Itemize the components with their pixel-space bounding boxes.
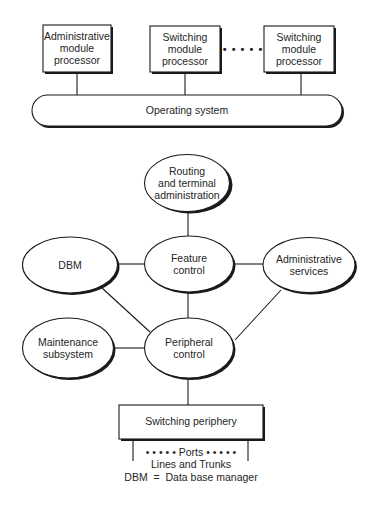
label-line: Peripheral: [165, 336, 213, 348]
label-line: Switching: [162, 31, 208, 43]
label-line: Feature: [171, 252, 207, 264]
label-line: module: [44, 42, 110, 54]
label-line: Administrative: [44, 30, 110, 42]
label-line: control: [165, 348, 213, 360]
peripheral-control-label: Peripheral control: [165, 336, 213, 360]
label-line: processor: [162, 55, 208, 67]
label-line: control: [171, 264, 207, 276]
label-line: module: [162, 43, 208, 55]
label-line: administration: [154, 189, 219, 201]
routing-label: Routing and terminal administration: [154, 165, 219, 201]
switching-module-processor-label-n: Switching module processor: [276, 31, 322, 67]
label-line: DBM: [58, 259, 81, 271]
switching-periphery-label: Switching periphery: [145, 415, 237, 427]
label-line: Switching: [276, 31, 322, 43]
operating-system-label: Operating system: [146, 104, 228, 116]
dbm-label: DBM: [58, 259, 81, 271]
legend-dbm: DBM = Data base manager: [124, 471, 257, 483]
label-line: processor: [276, 55, 322, 67]
administrative-services-label: Administrative services: [276, 253, 342, 277]
edge-admin-services-peripheral: [235, 290, 281, 340]
edge-dbm-peripheral: [102, 288, 150, 332]
label-line: and terminal: [154, 177, 219, 189]
label-line: Administrative: [276, 253, 342, 265]
maintenance-label: Maintenance subsystem: [38, 336, 98, 360]
switching-module-processor-label-1: Switching module processor: [162, 31, 208, 67]
label-line: module: [276, 43, 322, 55]
label-line: processor: [44, 54, 110, 66]
label-line: services: [276, 265, 342, 277]
label-line: Routing: [154, 165, 219, 177]
admin-module-processor-label: Administrative module processor: [44, 30, 110, 66]
ellipsis-dots: • • • • •: [223, 43, 263, 55]
feature-control-label: Feature control: [171, 252, 207, 276]
ports-label: • • • • • Ports • • • • •: [146, 446, 236, 458]
label-line: Maintenance: [38, 336, 98, 348]
lines-and-trunks-label: Lines and Trunks: [151, 458, 231, 470]
label-line: subsystem: [38, 348, 98, 360]
